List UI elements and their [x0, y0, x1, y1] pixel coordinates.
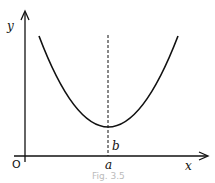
figure-caption: Fig. 3.5 [92, 172, 125, 181]
x-axis-label: x [185, 160, 192, 172]
origin-label: O [12, 159, 21, 170]
parabola-diagram [0, 0, 215, 183]
y-axis-label: y [7, 20, 14, 32]
vertex-y-label: b [112, 140, 120, 152]
vertex-x-label: a [105, 159, 112, 171]
